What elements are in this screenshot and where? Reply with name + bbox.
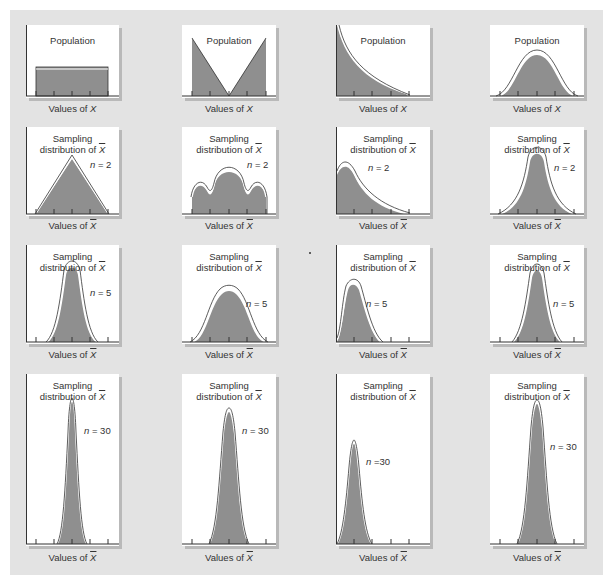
sample-size-label: n = 2 [247, 159, 268, 170]
sample-size-label: n = 30 [550, 441, 577, 452]
panel-title: Samplingdistribution of X [26, 380, 119, 402]
panel-n30-exponential: Samplingdistribution of X n =30 [336, 374, 430, 546]
panel-population-normal: Population [490, 25, 584, 98]
sample-size-label: n =30 [366, 456, 390, 467]
x-axis-label: Values of X [490, 349, 584, 360]
sample-size-label: n = 5 [366, 298, 387, 309]
panel-n2-uniform: Samplingdistribution of X n = 2 [26, 127, 119, 216]
panel-n2-exponential: Samplingdistribution of X n = 2 [336, 127, 430, 216]
x-axis-label: Values of X [336, 349, 430, 360]
sample-size-label: n = 30 [84, 425, 111, 436]
sample-size-label: n = 5 [553, 298, 574, 309]
panel-n5-exponential: Samplingdistribution of X n = 5 [336, 245, 430, 344]
panel-n5-uniform: Samplingdistribution of X n = 5 [26, 245, 119, 344]
panel-title: Samplingdistribution of X [336, 380, 430, 402]
x-axis-label: Values of X [490, 103, 584, 114]
panel-title: Samplingdistribution of X [182, 251, 276, 273]
stray-mark [309, 252, 311, 254]
x-axis-label: Values of X [182, 103, 276, 114]
panel-n30-normal: Samplingdistribution of X n = 30 [490, 374, 584, 546]
x-axis-label: Values of X [26, 103, 119, 114]
panel-title: Samplingdistribution of X [26, 133, 119, 155]
panel-title: Samplingdistribution of X [182, 380, 276, 402]
sample-size-label: n = 2 [368, 162, 389, 173]
panel-title: Samplingdistribution of X [490, 133, 584, 155]
panel-n30-uniform: Samplingdistribution of X n = 30 [26, 374, 119, 546]
panel-population-exponential: Population [336, 25, 430, 98]
sample-size-label: n = 5 [246, 298, 267, 309]
panel-title: Samplingdistribution of X [26, 251, 119, 273]
panel-n30-v-shape: Samplingdistribution of X n = 30 [182, 374, 276, 546]
x-axis-label: Values of X [182, 349, 276, 360]
panel-title: Samplingdistribution of X [490, 380, 584, 402]
x-axis-label: Values of X [26, 220, 119, 231]
panel-population-v-shape: Population [182, 25, 276, 98]
panel-title: Samplingdistribution of X [490, 251, 584, 273]
panel-title: Samplingdistribution of X [182, 133, 276, 155]
x-axis-label: Values of X [26, 349, 119, 360]
panel-n2-normal: Samplingdistribution of X n = 2 [490, 127, 584, 216]
sample-size-label: n = 2 [554, 162, 575, 173]
panel-title: Population [182, 35, 276, 46]
panel-n2-v-shape: Samplingdistribution of X n = 2 [182, 127, 276, 216]
x-axis-label: Values of X [336, 552, 430, 563]
x-axis-label: Values of X [336, 103, 430, 114]
x-axis-label: Values of X [490, 552, 584, 563]
x-axis-label: Values of X [490, 220, 584, 231]
panel-population-uniform: Population [26, 25, 119, 98]
panel-title: Samplingdistribution of X [336, 133, 430, 155]
panel-n5-v-shape: Samplingdistribution of X n = 5 [182, 245, 276, 344]
panel-title: Samplingdistribution of X [336, 251, 430, 273]
panel-title: Population [490, 35, 584, 46]
sample-size-label: n = 5 [90, 287, 111, 298]
sample-size-label: n = 30 [242, 425, 269, 436]
x-axis-label: Values of X [26, 552, 119, 563]
panel-title: Population [26, 35, 119, 46]
x-axis-label: Values of X [336, 220, 430, 231]
panel-title: Population [336, 35, 430, 46]
panel-n5-normal: Samplingdistribution of X n = 5 [490, 245, 584, 344]
sample-size-label: n = 2 [90, 159, 111, 170]
x-axis-label: Values of X [182, 552, 276, 563]
x-axis-label: Values of X [182, 220, 276, 231]
